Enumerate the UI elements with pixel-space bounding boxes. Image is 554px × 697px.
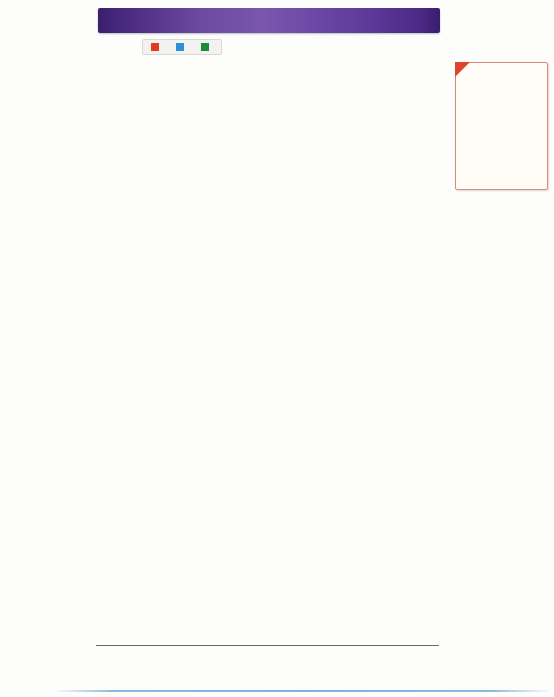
footer-rule [52,690,552,692]
legend-swatch-polyunsaturated-icon [201,43,209,51]
legend-swatch-saturated-icon [151,43,159,51]
legend-item-polyunsaturated [201,43,213,51]
chart-title-bar [98,8,440,33]
legend-swatch-monounsaturated-icon [176,43,184,51]
legend [142,39,222,55]
legend-item-monounsaturated [176,43,188,51]
callout-pointer-icon [455,62,470,77]
chart-page [0,0,554,697]
legend-item-saturated [151,43,163,51]
callout-box [455,62,548,190]
x-axis-line [96,645,439,646]
